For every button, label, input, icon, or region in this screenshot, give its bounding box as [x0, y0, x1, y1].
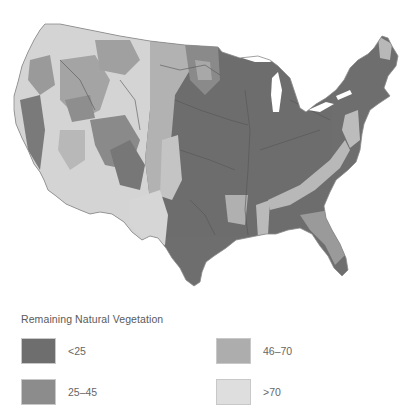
- us-vegetation-map: [0, 0, 411, 305]
- legend-swatch-lt25: [21, 338, 56, 364]
- legend-label-gt70: >70: [263, 386, 281, 398]
- legend-swatch-25-45: [21, 379, 56, 405]
- legend-swatch-46-70: [216, 338, 251, 364]
- legend-label-lt25: <25: [68, 345, 86, 357]
- legend-swatch-gt70: [216, 379, 251, 405]
- legend: Remaining Natural Vegetation <25 25–45 4…: [0, 300, 411, 410]
- map-regions: [0, 0, 411, 305]
- legend-title: Remaining Natural Vegetation: [21, 313, 163, 325]
- legend-item-lt25: <25: [21, 338, 86, 364]
- legend-label-25-45: 25–45: [68, 386, 97, 398]
- legend-item-25-45: 25–45: [21, 379, 97, 405]
- legend-label-46-70: 46–70: [263, 345, 292, 357]
- legend-item-46-70: 46–70: [216, 338, 292, 364]
- legend-item-gt70: >70: [216, 379, 281, 405]
